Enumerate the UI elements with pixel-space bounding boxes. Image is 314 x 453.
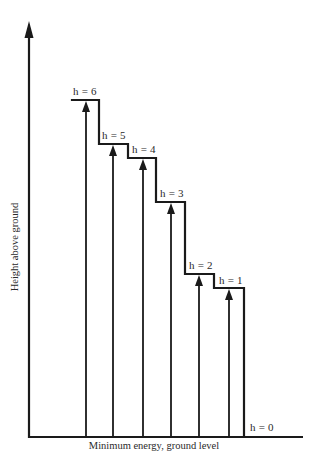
level-label-h5: h = 5: [102, 130, 126, 141]
up-arrow-icon: [225, 289, 233, 300]
level-label-h4: h = 4: [132, 144, 156, 155]
level-label-h6: h = 6: [73, 86, 97, 97]
up-arrow-icon: [109, 145, 117, 156]
up-arrow-icon: [82, 101, 90, 112]
level-label-h0: h = 0: [250, 422, 274, 433]
up-arrow-icon: [167, 203, 175, 214]
energy-arrow-h5: [109, 145, 117, 437]
x-axis-label: Minimum energy, ground level: [81, 441, 227, 452]
energy-arrow-h3: [167, 203, 175, 437]
energy-staircase-diagram: [0, 0, 314, 453]
level-label-h3: h = 3: [160, 188, 184, 199]
energy-arrow-h1: [225, 289, 233, 437]
y-axis: [25, 21, 34, 438]
energy-arrow-h4: [139, 159, 147, 437]
y-axis-arrow-icon: [25, 21, 34, 38]
y-axis-label: Height above ground: [10, 203, 21, 292]
staircase-outline: [72, 100, 244, 437]
up-arrow-icon: [139, 159, 147, 170]
level-label-h1: h = 1: [219, 275, 243, 286]
energy-arrow-h2: [195, 275, 203, 437]
up-arrow-icon: [195, 275, 203, 286]
energy-arrow-h6: [82, 101, 90, 437]
level-label-h2: h = 2: [189, 260, 213, 271]
